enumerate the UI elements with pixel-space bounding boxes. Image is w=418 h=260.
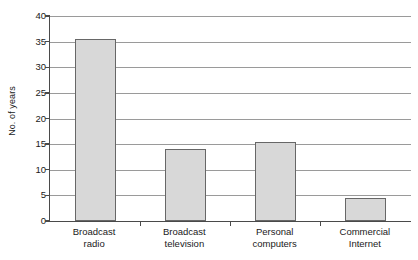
y-tick-mark <box>45 195 50 196</box>
x-category-label-line: Broadcast <box>49 226 139 238</box>
y-tick-label: 30 <box>22 63 46 73</box>
bar <box>75 39 116 221</box>
bar <box>345 198 386 221</box>
y-tick-label: 25 <box>22 88 46 98</box>
x-axis-category-labels: BroadcastradioBroadcasttelevisionPersona… <box>49 226 411 260</box>
x-category-label: Broadcastradio <box>49 226 139 250</box>
y-tick-label: 35 <box>22 37 46 47</box>
x-category-label: CommercialInternet <box>320 226 410 250</box>
y-axis-title-text: No. of years <box>7 86 17 136</box>
bar <box>165 149 206 221</box>
y-tick-mark <box>45 67 50 68</box>
x-category-label-line: Personal <box>230 226 320 238</box>
y-tick-mark <box>45 118 50 119</box>
gridline <box>50 16 411 17</box>
y-tick-mark <box>45 41 50 42</box>
x-category-label-line: television <box>139 238 229 250</box>
bar <box>255 142 296 221</box>
y-tick-label: 15 <box>22 139 46 149</box>
y-tick-mark <box>45 15 50 16</box>
x-category-label-line: radio <box>49 238 139 250</box>
x-category-label-line: Internet <box>320 238 410 250</box>
y-axis-title: No. of years <box>0 0 24 222</box>
x-category-label: Broadcasttelevision <box>139 226 229 250</box>
bar-chart: No. of years 0510152025303540 Broadcastr… <box>0 0 418 260</box>
y-tick-label: 10 <box>22 165 46 175</box>
y-tick-mark <box>45 92 50 93</box>
y-tick-mark <box>45 169 50 170</box>
y-tick-mark <box>45 220 50 221</box>
y-tick-label: 0 <box>22 216 46 226</box>
x-category-label-line: computers <box>230 238 320 250</box>
y-axis-tick-labels: 0510152025303540 <box>22 0 46 222</box>
y-tick-label: 40 <box>22 11 46 21</box>
y-tick-mark <box>45 143 50 144</box>
plot-area <box>49 16 411 222</box>
y-tick-label: 5 <box>22 191 46 201</box>
x-category-label-line: Commercial <box>320 226 410 238</box>
y-tick-label: 20 <box>22 114 46 124</box>
x-category-label: Personalcomputers <box>230 226 320 250</box>
x-category-label-line: Broadcast <box>139 226 229 238</box>
